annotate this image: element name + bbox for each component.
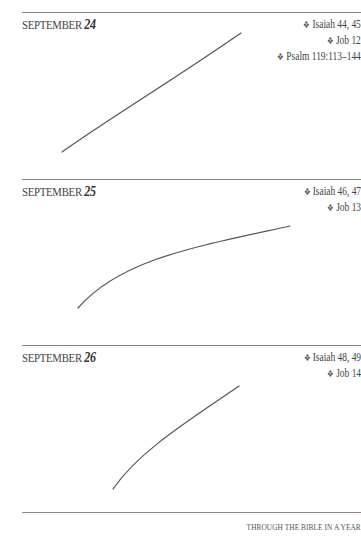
pen-stroke xyxy=(78,226,290,308)
footer-divider xyxy=(22,512,361,513)
pen-stroke xyxy=(62,33,241,152)
pen-strokes xyxy=(0,0,361,547)
pen-stroke xyxy=(113,386,239,489)
running-footer: THROUGH THE BIBLE IN A YEAR xyxy=(247,522,361,532)
